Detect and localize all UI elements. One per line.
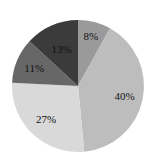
pie-slices [12, 20, 144, 152]
slice-label: 27% [36, 113, 56, 125]
slice-label: 13% [52, 43, 72, 55]
slice-label: 8% [84, 30, 99, 42]
pie-chart: 8%40%27%11%13% [0, 0, 160, 167]
slice-label: 40% [114, 90, 134, 102]
slice-label: 11% [24, 62, 44, 74]
